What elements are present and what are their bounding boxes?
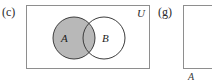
panel-caption-g: A xyxy=(188,72,194,82)
set-label-a: A xyxy=(61,33,68,44)
universe-rectangle-g xyxy=(183,5,212,69)
figure-canvas: (c) A B U (g) A xyxy=(0,0,212,84)
venn-diagram-c xyxy=(27,6,151,70)
panel-label-c: (c) xyxy=(2,6,15,18)
universe-rectangle-c: A B U xyxy=(26,5,150,69)
panel-label-g: (g) xyxy=(158,6,172,18)
set-label-b: B xyxy=(102,33,109,44)
universe-label-c: U xyxy=(137,7,145,19)
